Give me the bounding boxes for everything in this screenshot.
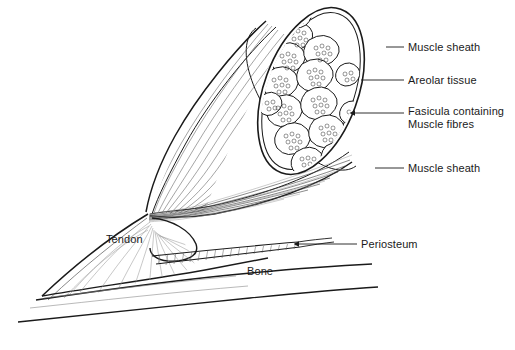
label-muscle-sheath-bottom: Muscle sheath [408,162,480,175]
figure-canvas: Muscle sheath Areolar tissue Fasicula co… [0,0,515,350]
label-areolar-tissue: Areolar tissue [408,74,477,87]
label-bone: Bone [247,265,273,278]
converging-fibre-bundle [149,160,350,220]
label-muscle-sheath-top: Muscle sheath [408,41,480,54]
label-fasicula-line1: Fasicula containing [408,105,504,118]
label-periosteum: Periosteum [361,238,418,251]
bone [18,264,378,322]
label-fasicula-line2: Muscle fibres [408,118,474,131]
label-tendon: Tendon [106,233,143,246]
periosteum [152,238,334,266]
muscle-cut-face [237,0,385,191]
